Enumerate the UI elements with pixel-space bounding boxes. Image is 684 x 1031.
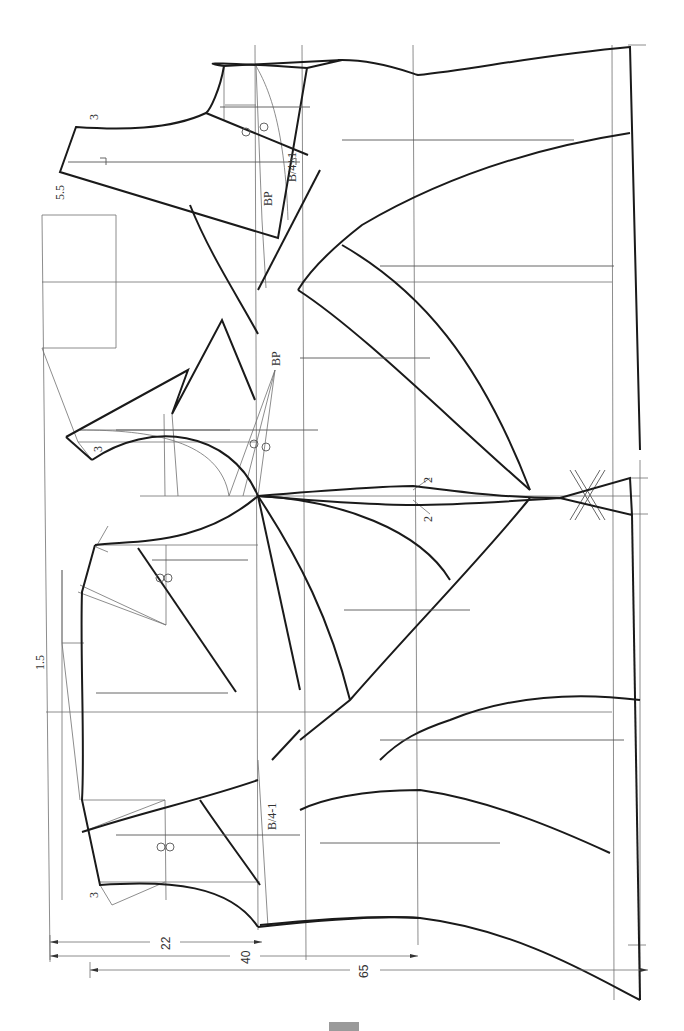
dimension-65: 65	[357, 964, 371, 978]
label-back-offset: 1.5	[33, 655, 47, 670]
pattern-diagram: BP B/4+1 BP B/4-1 3 3 3 5.5 1.5 2 2 22 4…	[0, 0, 684, 1031]
page-footer-bar	[329, 1022, 359, 1031]
label-neck-offset-top: 3	[87, 114, 101, 120]
dimension-22: 22	[159, 936, 173, 950]
notch-icon	[262, 443, 270, 451]
notch-icon	[164, 574, 172, 582]
label-bust-plus: B/4+1	[285, 152, 299, 182]
construction-lines	[42, 45, 648, 1000]
pattern-outlines	[60, 47, 640, 1000]
label-side-ease-upper: 2	[421, 477, 435, 483]
label-bp-top: BP	[261, 191, 275, 206]
dimension-lines: 22 40 65	[50, 934, 648, 978]
label-shoulder-offset: 5.5	[53, 185, 67, 200]
label-neck-offset-bottom: 3	[87, 892, 101, 898]
dimension-40: 40	[239, 950, 253, 964]
label-bust-minus: B/4-1	[265, 803, 279, 830]
notch-icon	[260, 123, 268, 131]
labels: BP B/4+1 BP B/4-1 3 3 3 5.5 1.5 2 2	[33, 114, 435, 898]
grainline-arrows	[68, 107, 624, 843]
label-bp-middle: BP	[269, 351, 283, 366]
label-side-ease-lower: 2	[421, 516, 435, 522]
label-neck-offset-mid: 3	[91, 446, 105, 452]
notch-icon	[250, 440, 258, 448]
notch-icon	[157, 843, 165, 851]
notch-icon	[166, 843, 174, 851]
